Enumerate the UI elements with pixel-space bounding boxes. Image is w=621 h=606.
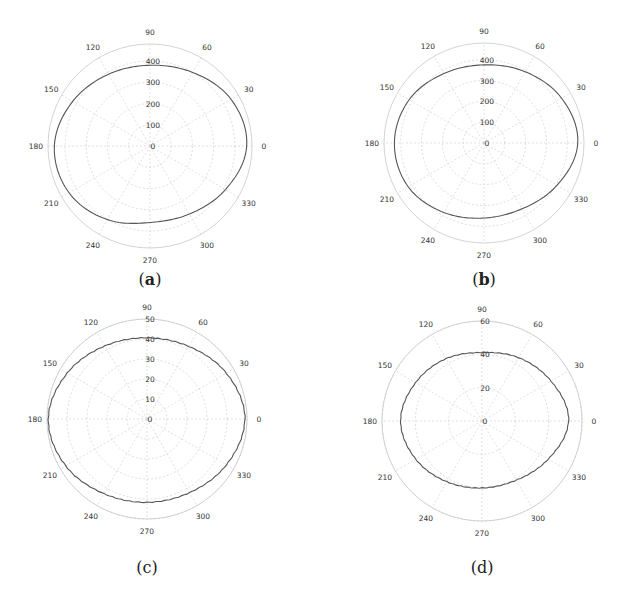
- radial-tick-label: 0: [485, 139, 490, 148]
- angle-tick-label: 240: [419, 514, 434, 523]
- radial-tick-label: 100: [480, 118, 495, 127]
- angle-tick-label: 270: [143, 256, 158, 265]
- angle-tick-label: 270: [140, 527, 155, 536]
- angle-tick-label: 330: [572, 473, 587, 482]
- angle-tick-label: 330: [242, 199, 257, 208]
- angle-tick-label: 0: [257, 415, 262, 424]
- angle-tick-label: 180: [363, 417, 378, 426]
- angle-tick-label: 60: [533, 320, 543, 329]
- angle-tick-label: 150: [378, 361, 393, 370]
- angle-tick-label: 0: [592, 417, 597, 426]
- polar-plot-b: 0306090120150180210240270300330010020030…: [365, 27, 599, 260]
- angle-tick-label: 210: [378, 473, 393, 482]
- angle-tick-label: 240: [84, 512, 99, 521]
- radial-tick-label: 40: [480, 350, 490, 359]
- radial-tick-label: 10: [145, 395, 155, 404]
- polar-plot-d: 03060901201501802102402703003300204060: [363, 305, 597, 538]
- caption-a: (a): [139, 270, 162, 289]
- radial-tick-label: 300: [480, 77, 495, 86]
- angle-tick-label: 60: [202, 43, 212, 52]
- figure: 0306090120150180210240270300330010020030…: [0, 0, 621, 606]
- radial-tick-label: 40: [145, 335, 155, 344]
- angle-tick-label: 300: [200, 241, 215, 250]
- angle-tick-label: 30: [239, 359, 249, 368]
- radial-tick-label: 400: [480, 56, 495, 65]
- angle-tick-label: 270: [475, 529, 490, 538]
- angle-tick-label: 120: [86, 43, 101, 52]
- caption-b: (b): [472, 270, 496, 289]
- angle-tick-label: 330: [237, 471, 252, 480]
- polar-plots: 0306090120150180210240270300330010020030…: [0, 0, 621, 606]
- angle-tick-label: 300: [533, 236, 548, 245]
- radial-tick-label: 100: [146, 121, 161, 130]
- caption-c: (c): [136, 558, 157, 577]
- polar-plot-a: 0306090120150180210240270300330010020030…: [29, 28, 267, 265]
- angle-tick-label: 150: [44, 85, 59, 94]
- angle-tick-label: 180: [29, 142, 44, 151]
- angle-tick-label: 180: [28, 415, 43, 424]
- angle-tick-label: 30: [574, 361, 584, 370]
- angle-tick-label: 210: [43, 471, 58, 480]
- angle-tick-label: 120: [421, 42, 436, 51]
- angle-tick-label: 120: [84, 318, 99, 327]
- angle-tick-label: 0: [262, 142, 267, 151]
- radial-tick-label: 0: [483, 417, 488, 426]
- angle-tick-label: 240: [421, 236, 436, 245]
- radial-tick-label: 20: [145, 375, 155, 384]
- angle-tick-label: 90: [479, 27, 489, 36]
- angle-tick-label: 210: [44, 199, 59, 208]
- radial-tick-label: 400: [146, 57, 161, 66]
- angle-tick-label: 30: [244, 85, 254, 94]
- angle-tick-label: 270: [477, 251, 492, 260]
- radial-tick-label: 50: [145, 315, 155, 324]
- angle-tick-label: 210: [380, 195, 395, 204]
- angle-tick-label: 60: [198, 318, 208, 327]
- angle-tick-label: 60: [535, 42, 545, 51]
- angle-tick-label: 30: [576, 83, 586, 92]
- angle-tick-label: 120: [419, 320, 434, 329]
- angle-tick-label: 240: [86, 241, 101, 250]
- radial-tick-label: 200: [480, 97, 495, 106]
- radial-tick-label: 30: [145, 355, 155, 364]
- caption-d: (d): [471, 558, 494, 577]
- angle-tick-label: 150: [380, 83, 395, 92]
- radial-tick-label: 60: [480, 317, 490, 326]
- angle-tick-label: 0: [594, 139, 599, 148]
- angle-tick-label: 330: [574, 195, 589, 204]
- radial-tick-label: 200: [146, 100, 161, 109]
- angle-tick-label: 150: [43, 359, 58, 368]
- radial-tick-label: 0: [151, 142, 156, 151]
- angle-tick-label: 300: [531, 514, 546, 523]
- radial-tick-label: 20: [480, 384, 490, 393]
- radial-tick-label: 300: [146, 78, 161, 87]
- angle-tick-label: 90: [145, 28, 155, 37]
- polar-plot-c: 0306090120150180210240270300330010203040…: [28, 303, 262, 536]
- angle-tick-label: 90: [477, 305, 487, 314]
- angle-tick-label: 90: [142, 303, 152, 312]
- angle-tick-label: 180: [365, 139, 380, 148]
- angle-tick-label: 300: [196, 512, 211, 521]
- radial-tick-label: 0: [148, 415, 153, 424]
